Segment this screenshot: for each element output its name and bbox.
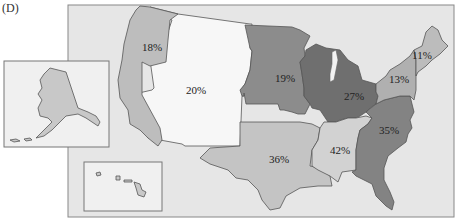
hawaii-inset [84,162,162,211]
region-west-north-central[interactable] [240,25,310,114]
label-mountain: 20% [186,84,206,96]
label-west-south-central: 36% [269,153,289,165]
label-east-south-central: 42% [330,144,350,156]
label-middle-atlantic: 13% [389,73,409,85]
label-pacific: 18% [142,41,162,53]
label-east-north-central: 27% [344,90,364,102]
us-region-map: 18% 20% 19% 27% 13% 11% 35% 42% 36% [0,0,456,219]
label-west-north-central: 19% [275,72,295,84]
label-south-atlantic: 35% [379,124,399,136]
label-new-england: 11% [412,49,432,61]
